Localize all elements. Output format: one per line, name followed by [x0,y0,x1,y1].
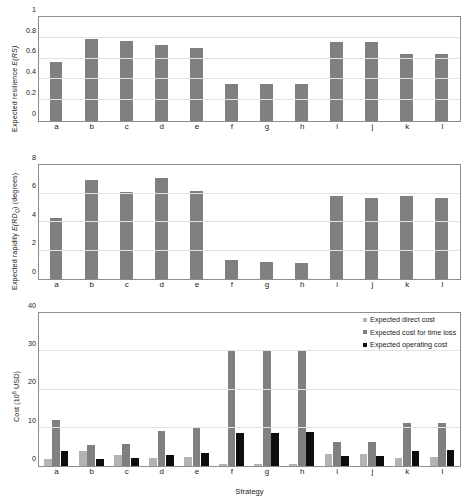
panel-cost: Cost (106 USD) abcdefghijkl Expected dir… [0,300,471,501]
bar-slot: c [109,165,144,279]
x-axis-tick-label: b [74,123,109,131]
bar-group-resilience: abcdefghijkl [39,17,460,121]
y-axis-tick-label: 6 [32,183,36,190]
legend-swatch-icon [363,330,367,334]
bar-slot: b [74,17,109,121]
x-axis-tick-label: l [425,468,460,476]
bar-slot: a [39,313,74,466]
bar [295,263,308,279]
y-axis-tick-label: 40 [28,302,36,309]
bar [263,351,271,467]
legend-swatch-icon [363,318,367,322]
y-axis-tick-label: 0 [32,268,36,275]
legend-item: Expected direct cost [363,316,456,323]
x-axis-tick-label: j [355,281,390,289]
bar-slot: e [179,165,214,279]
x-axis-tick-label: g [250,281,285,289]
y-axis-tick-label: 0 [32,110,36,117]
bar [365,42,378,121]
bar [79,451,87,466]
bar-slot: g [250,165,285,279]
bar [400,54,413,121]
gridline [39,221,460,222]
bar-slot: k [390,165,425,279]
bar-slot: d [144,165,179,279]
x-axis-tick-label: i [320,123,355,131]
x-axis-tick-label: f [214,281,249,289]
x-axis-tick-label: c [109,468,144,476]
bar [271,433,279,466]
legend-swatch-icon [363,343,367,347]
gridline [39,16,460,17]
bar [438,423,446,466]
bar [120,192,133,279]
legend-item: Expected cost for time loss [363,329,456,336]
gridline [39,389,460,390]
bar [260,84,273,121]
bar [295,84,308,121]
y-axis-tick-label: 20 [28,379,36,386]
gridline [39,164,460,165]
x-axis-tick-label: j [355,123,390,131]
bar [435,54,448,121]
x-axis-tick-label: d [144,468,179,476]
y-axis-label-cost: Cost (106 USD) [12,371,21,422]
bar [225,260,238,279]
bar [260,262,273,279]
x-axis-tick-label: k [390,281,425,289]
bar [225,84,238,121]
bar [190,191,203,279]
bar-slot: i [320,313,355,466]
x-axis-tick-label: c [109,123,144,131]
y-axis-tick-label: 2 [32,240,36,247]
bar [228,351,236,467]
plot-area-rapidity: abcdefghijkl 02468 [38,164,461,280]
figure-three-panel-bar-charts: Expected resilience E(RS) abcdefghijkl 0… [0,0,471,501]
bar-slot: f [214,313,249,466]
bar [85,180,98,279]
y-axis-label-rapidity: Expected rapidity E(RDQ) (degrees) [10,173,19,290]
bar [368,442,376,466]
gridline [39,99,460,100]
gridline [39,58,460,59]
legend-label: Expected operating cost [370,341,447,348]
bar [435,198,448,279]
bar [120,41,133,121]
legend: Expected direct costExpected cost for ti… [363,316,456,354]
y-axis-label-resilience: Expected resilience E(RS) [10,46,19,132]
bar-slot: k [390,17,425,121]
x-axis-tick-label: d [144,123,179,131]
bar [87,445,95,466]
bar-slot: g [250,313,285,466]
x-axis-tick-label: e [179,281,214,289]
x-axis-tick-label: j [355,468,390,476]
bar-slot: l [425,165,460,279]
y-axis-tick-label: 10 [28,417,36,424]
x-axis-title: Strategy [38,487,461,496]
x-axis-tick-label: a [39,468,74,476]
x-axis-tick-label: b [74,281,109,289]
bar [236,433,244,466]
bar-slot: f [214,17,249,121]
bar [61,451,69,466]
bar-slot: e [179,313,214,466]
bar [155,45,168,121]
x-axis-tick-label: l [425,281,460,289]
bar [333,442,341,466]
x-axis-tick-label: f [214,468,249,476]
bar [85,39,98,121]
panel-expected-rapidity: Expected rapidity E(RDQ) (degrees) abcde… [0,150,471,300]
y-axis-tick-label: 1 [32,6,36,13]
plot-area-cost: abcdefghijkl Expected direct costExpecte… [38,312,461,467]
gridline [39,427,460,428]
bar-slot: i [320,17,355,121]
bar-slot: a [39,165,74,279]
x-axis-tick-label: a [39,281,74,289]
x-axis-tick-label: c [109,281,144,289]
bar [122,444,130,466]
y-axis-tick-label: 0.6 [26,48,36,55]
bar-slot: j [355,165,390,279]
x-axis-tick-label: g [250,123,285,131]
bar-slot: i [320,165,355,279]
bar-slot: e [179,17,214,121]
